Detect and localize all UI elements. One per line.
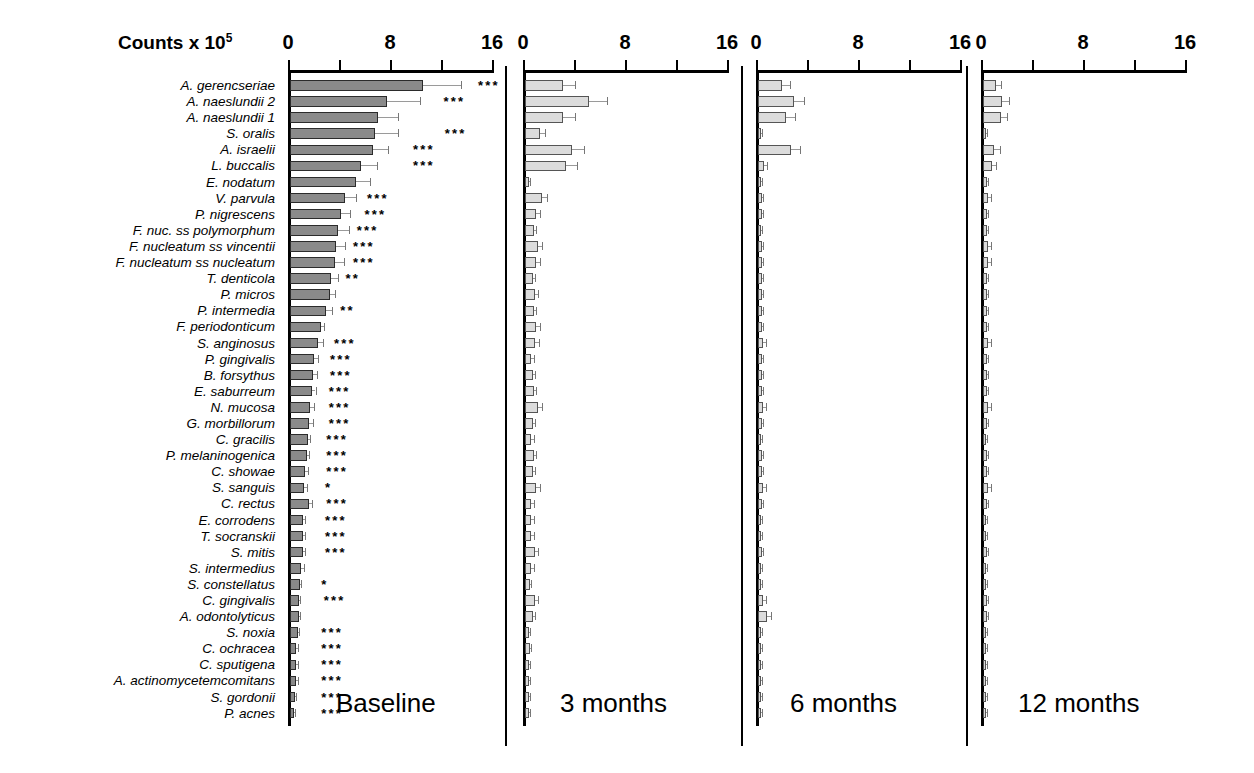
species-label: B. forsythus: [0, 368, 281, 384]
significance-marker: ***: [326, 465, 348, 478]
bar: [290, 531, 303, 542]
bar-row: [981, 400, 1245, 416]
bar-row: **: [288, 303, 552, 319]
error-whisker-cap: [987, 435, 988, 443]
bar: [290, 128, 375, 139]
error-whisker-cap: [987, 628, 988, 636]
error-whisker-cap: [534, 564, 535, 572]
error-whisker-cap: [988, 307, 989, 315]
error-whisker-cap: [317, 371, 318, 379]
bar-row: [523, 78, 787, 94]
bar: [525, 209, 536, 220]
bar: [290, 627, 298, 638]
bar-rows: ****************************************…: [288, 78, 552, 722]
bar: [290, 241, 336, 252]
error-whisker-cap: [763, 258, 764, 266]
error-whisker-cap: [988, 274, 989, 282]
bar: [525, 145, 572, 156]
x-tick-label: 8: [852, 31, 863, 54]
bar: [290, 434, 308, 445]
error-whisker-cap: [987, 564, 988, 572]
error-whisker-cap: [762, 580, 763, 588]
bar-row: [523, 513, 787, 529]
significance-marker: ***: [329, 385, 351, 398]
x-axis-tick: [1032, 60, 1034, 70]
bar: [290, 209, 341, 220]
bar-row: [981, 577, 1245, 593]
error-whisker-cap: [304, 564, 305, 572]
significance-marker: ***: [329, 417, 351, 430]
error-whisker-cap: [530, 178, 531, 186]
bar-row: [523, 609, 787, 625]
error-whisker-cap: [763, 387, 764, 395]
error-whisker-cap: [766, 484, 767, 492]
bar-row: [981, 287, 1245, 303]
bar-row: [523, 448, 787, 464]
error-whisker-cap: [987, 709, 988, 717]
x-axis-tick: [676, 60, 678, 70]
bar-row: [523, 400, 787, 416]
species-label: F. nucleatum ss vincentii: [0, 239, 281, 255]
species-label: A. naeslundii 1: [0, 110, 281, 126]
species-label: S. sanguis: [0, 480, 281, 496]
significance-marker: ***: [326, 497, 348, 510]
error-whisker-cap: [534, 435, 535, 443]
bar-rows: [981, 78, 1245, 722]
error-whisker-cap: [309, 451, 310, 459]
error-whisker-cap: [335, 290, 336, 298]
bar-row: ***: [288, 255, 552, 271]
bar-row: [523, 641, 787, 657]
error-whisker-cap: [536, 451, 537, 459]
error-whisker-cap: [300, 612, 301, 620]
error-whisker: [361, 165, 376, 166]
species-label: C. rectus: [0, 496, 281, 512]
bar: [525, 466, 533, 477]
error-whisker-cap: [762, 644, 763, 652]
error-whisker-cap: [316, 387, 317, 395]
bar-row: [981, 126, 1245, 142]
error-whisker-cap: [584, 146, 585, 154]
error-whisker-cap: [307, 484, 308, 492]
significance-marker: ***: [478, 79, 500, 92]
error-whisker-cap: [991, 484, 992, 492]
error-whisker-cap: [987, 580, 988, 588]
error-whisker-cap: [763, 355, 764, 363]
error-whisker-cap: [318, 355, 319, 363]
error-whisker-cap: [540, 210, 541, 218]
bar-row: ***: [288, 158, 552, 174]
error-whisker-cap: [762, 226, 763, 234]
significance-marker: ***: [325, 546, 347, 559]
significance-marker: ***: [325, 514, 347, 527]
error-whisker-cap: [987, 516, 988, 524]
error-whisker-cap: [988, 500, 989, 508]
error-whisker-cap: [987, 532, 988, 540]
bar: [525, 418, 533, 429]
error-whisker-cap: [762, 677, 763, 685]
error-whisker-cap: [298, 661, 299, 669]
bar: [983, 161, 992, 172]
error-whisker-cap: [767, 162, 768, 170]
x-axis-line: [756, 70, 962, 73]
significance-marker: ***: [321, 642, 343, 655]
significance-marker: ***: [326, 449, 348, 462]
species-label: F. periodonticum: [0, 319, 281, 335]
significance-marker: ***: [329, 401, 351, 414]
error-whisker-cap: [1007, 113, 1008, 121]
bar-row: [981, 545, 1245, 561]
bar: [758, 611, 767, 622]
bar-row: [523, 545, 787, 561]
bar-row: [981, 271, 1245, 287]
error-whisker-cap: [530, 677, 531, 685]
error-whisker-cap: [763, 290, 764, 298]
error-whisker-cap: [300, 596, 301, 604]
bar-row: ***: [288, 336, 552, 352]
error-whisker-cap: [795, 113, 796, 121]
bar-row: [523, 126, 787, 142]
error-whisker-cap: [1000, 146, 1001, 154]
error-whisker-cap: [535, 612, 536, 620]
error-whisker: [341, 213, 350, 214]
error-whisker-cap: [991, 339, 992, 347]
error-whisker-cap: [766, 596, 767, 604]
species-label: T. socranskii: [0, 529, 281, 545]
error-whisker-cap: [542, 403, 543, 411]
